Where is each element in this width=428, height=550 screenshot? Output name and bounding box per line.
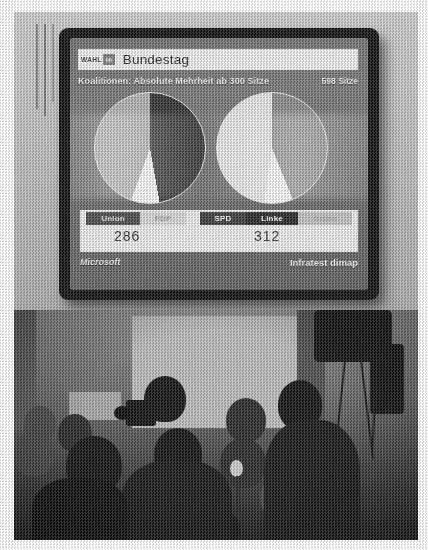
wahl-logo-badge: 06 — [103, 54, 115, 65]
wall-line-1 — [36, 24, 38, 109]
pie-annotation-b: · — [203, 164, 205, 169]
wahl-logo-word: WAHL — [81, 56, 102, 63]
microsoft-brand: Microsoft — [80, 257, 121, 267]
handheld-camera-lens — [114, 406, 130, 420]
wall-line-2 — [44, 24, 46, 116]
pie-chart-left-coalition — [94, 92, 206, 204]
handheld-camera — [126, 400, 156, 426]
person-shoulders — [122, 460, 232, 540]
seats-right-coalition: 312 — [254, 228, 280, 244]
legend-chip-spd[interactable]: SPD — [200, 212, 246, 225]
crowd-of-journalists — [14, 310, 418, 540]
legend-chip-fdp[interactable]: FDP — [140, 212, 186, 225]
coalition-result-box: Union FDP SPD Linke Grüne 286 312 — [80, 210, 358, 252]
infratest-dimap-brand: Infratest dimap — [290, 257, 358, 268]
legend-row: Union FDP SPD Linke Grüne — [80, 212, 358, 226]
microphone-handle — [236, 476, 240, 516]
screen-surface: WAHL 06 Bundestag Koalitionen: Absolute … — [70, 38, 368, 290]
wall-mounted-monitor: WAHL 06 Bundestag Koalitionen: Absolute … — [59, 28, 379, 300]
monitor-bezel-inner: WAHL 06 Bundestag Koalitionen: Absolute … — [70, 38, 368, 290]
person-shoulders — [264, 420, 360, 540]
total-seats-label: 598 Sitze — [322, 76, 358, 86]
person-head — [14, 432, 54, 476]
person-head — [226, 398, 266, 442]
photo-border-left — [0, 0, 14, 550]
page-title: Bundestag — [123, 52, 189, 67]
legend-chip-gruene[interactable]: Grüne — [298, 212, 352, 225]
photo-border-right — [418, 0, 428, 550]
coalition-subtitle: Koalitionen: Absolute Mehrheit ab 300 Si… — [78, 76, 269, 86]
photo-border-bottom — [0, 540, 428, 550]
screen-title-bar: WAHL 06 Bundestag — [78, 49, 358, 70]
seats-left-coalition: 286 — [114, 228, 140, 244]
photo-border-top — [0, 0, 428, 12]
photograph-scene: WAHL 06 Bundestag Koalitionen: Absolute … — [0, 0, 428, 550]
person-shoulders — [32, 478, 128, 540]
legend-chip-linke[interactable]: Linke — [246, 212, 298, 225]
legend-chip-union[interactable]: Union — [86, 212, 140, 225]
pie-chart-right-coalition — [216, 92, 328, 204]
screen-subtitle-row: Koalitionen: Absolute Mehrheit ab 300 Si… — [78, 74, 360, 88]
wahl-logo: WAHL 06 — [81, 52, 115, 67]
pie-annotation-a: · — [203, 128, 205, 133]
screen-footer: Microsoft Infratest dimap — [80, 254, 358, 270]
pie-chart-area: · · — [70, 90, 368, 208]
wall-line-3 — [52, 24, 54, 102]
coalition-seats-row: 286 312 — [80, 228, 358, 250]
microphone-head — [230, 460, 243, 477]
